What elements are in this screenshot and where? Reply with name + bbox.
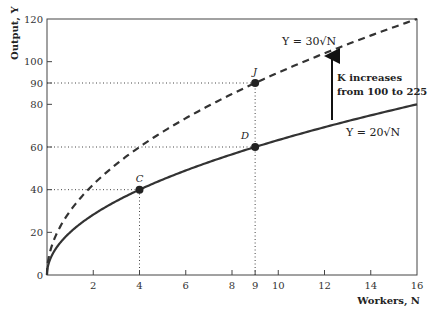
y-tick-label: 90 [30,78,43,89]
point-label-d: D [240,130,249,141]
marked-points: CDJ [136,66,260,194]
point-label-c: C [136,173,144,184]
y-tick-label: 20 [30,227,43,238]
x-tick-label: 9 [252,280,258,291]
x-tick-label: 8 [229,280,235,291]
point-d [251,143,259,151]
y-tick-label: 100 [24,56,43,67]
x-tick-label: 16 [411,280,424,291]
y-tick-label: 60 [30,142,43,153]
y-tick-label: 40 [30,184,43,195]
x-axis-ticks: 2468910121416 [90,270,423,291]
production-function-chart: 2468910121416 02040608090100120 CDJ Y = … [0,0,439,319]
plot-frame [47,19,417,275]
x-tick-label: 2 [90,280,96,291]
point-j [251,79,259,87]
annotation-line-1: K increases [337,72,402,83]
reference-lines [47,83,255,275]
upper-curve-dashed [47,19,417,275]
annotation-line-2: from 100 to 225 [337,86,427,97]
x-tick-label: 10 [272,280,285,291]
y-tick-label: 80 [30,99,43,110]
y-tick-label: 120 [24,14,43,25]
x-tick-label: 14 [364,280,377,291]
y-tick-label: 0 [37,270,43,281]
point-label-j: J [251,66,258,77]
x-tick-label: 12 [318,280,331,291]
x-tick-label: 4 [136,280,142,291]
x-axis-title: Workers, N [356,295,420,307]
lower-curve-label: Y = 20√N [345,126,400,139]
y-axis-title: Output, Y [9,6,21,60]
upper-curve-label: Y = 30√N [281,35,336,48]
x-tick-label: 6 [183,280,189,291]
point-c [136,186,144,194]
